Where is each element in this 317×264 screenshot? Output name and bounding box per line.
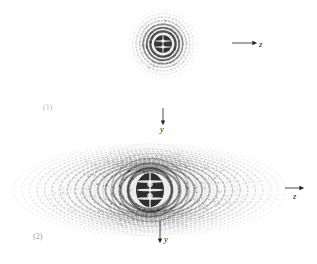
y-axis-label-2: y	[164, 235, 168, 244]
z-axis-label-1: z	[259, 40, 262, 49]
y-axis-label-1: y	[160, 125, 164, 134]
z-axis-label-2: z	[293, 192, 296, 201]
z-axis-arrow-1	[226, 37, 260, 49]
figure-index-label-2: (2)	[33, 233, 42, 241]
figure-index-label-1: (1)	[43, 104, 52, 112]
figure-canvas: (1) z y (2) z y	[0, 0, 317, 264]
